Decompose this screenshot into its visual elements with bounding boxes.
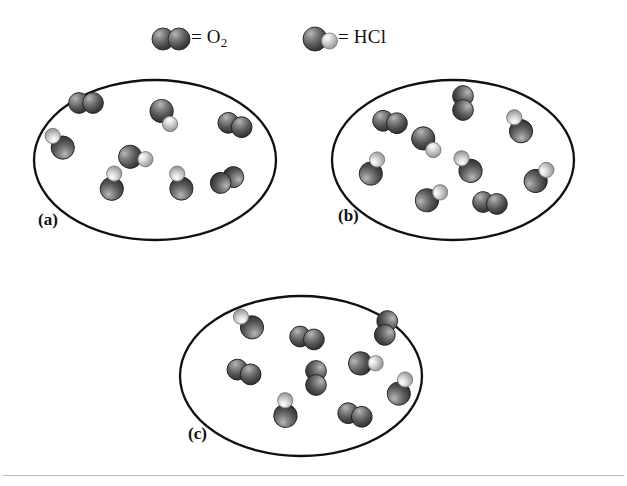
molecule-o2: [371, 109, 409, 136]
hcl-molecule-icon: [303, 27, 338, 51]
molecule-hcl: [39, 126, 79, 162]
molecule-hcl: [115, 139, 155, 175]
molecule-o2: [306, 361, 327, 396]
molecule-o2: [224, 356, 264, 387]
bottom-divider: [3, 475, 624, 476]
molecule-o2: [288, 324, 326, 352]
panel-a: [34, 80, 276, 240]
oxygen-atom: [453, 100, 474, 121]
molecule-o2: [471, 190, 508, 215]
molecule-o2: [207, 163, 247, 197]
molecule-hcl: [265, 390, 304, 432]
molecule-hcl: [497, 107, 539, 148]
oxygen-atom: [168, 28, 190, 50]
legend-subscript: 2: [221, 35, 228, 50]
panel-b-ellipse: [332, 80, 574, 240]
o2-molecule-icon: [152, 28, 190, 50]
molecule-hcl: [158, 163, 200, 205]
molecule-hcl: [521, 158, 555, 196]
legend-label-o2: = O2: [191, 26, 228, 51]
molecule-hcl: [229, 307, 267, 341]
figure-canvas: [0, 0, 627, 486]
molecule-o2: [336, 400, 375, 429]
panel-label-b: (b): [338, 206, 359, 226]
molecule-hcl: [447, 148, 488, 186]
panel-label-a: (a): [38, 210, 58, 230]
molecule-hcl: [407, 124, 447, 160]
molecule-hcl: [411, 176, 450, 218]
molecule-o2: [453, 86, 474, 121]
oxygen-atom: [306, 375, 327, 396]
hydrogen-atom: [322, 33, 338, 49]
molecule-hcl: [357, 151, 386, 186]
molecule-o2: [69, 93, 104, 114]
molecule-hcl: [344, 343, 386, 382]
legend-item-hcl: = HCl: [338, 26, 386, 48]
molecule-hcl: [94, 164, 130, 204]
legend-item-o2: = O2: [191, 26, 228, 51]
legend-label-hcl: = HCl: [338, 26, 386, 48]
panel-label-c: (c): [188, 424, 207, 444]
panel-b: [332, 80, 574, 240]
molecule-hcl: [385, 371, 414, 406]
panel-c: [180, 296, 422, 456]
oxygen-atom: [83, 93, 104, 114]
molecule-hcl: [144, 95, 185, 134]
molecule-o2: [215, 110, 255, 141]
